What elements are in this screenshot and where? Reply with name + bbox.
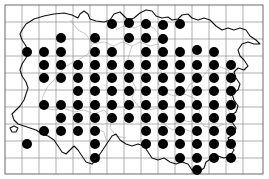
record-dot	[209, 153, 219, 163]
record-dot	[192, 165, 202, 175]
grid-horizontal-lines	[5, 22, 263, 158]
record-dot	[73, 60, 83, 70]
record-dot	[124, 113, 134, 123]
record-dot	[226, 126, 236, 136]
record-dot	[175, 139, 185, 149]
record-dot	[56, 60, 66, 70]
record-dot	[141, 100, 151, 110]
record-dot	[209, 73, 219, 83]
record-dot	[209, 86, 219, 96]
record-dot	[90, 73, 100, 83]
record-dot	[158, 139, 168, 149]
record-dot	[158, 100, 168, 110]
record-dot	[158, 60, 168, 70]
record-dot	[175, 19, 185, 29]
record-dot	[141, 47, 151, 57]
record-dot	[192, 60, 202, 70]
record-dot	[209, 139, 219, 149]
record-dot	[141, 60, 151, 70]
record-dot	[141, 126, 151, 136]
record-dot	[141, 139, 151, 149]
record-dot	[141, 19, 151, 29]
record-dot	[90, 47, 100, 57]
record-dot	[90, 113, 100, 123]
record-dot	[209, 126, 219, 136]
record-dot	[141, 33, 151, 43]
record-dot	[175, 86, 185, 96]
record-dot	[226, 113, 236, 123]
record-dot	[107, 100, 117, 110]
record-dot	[226, 73, 236, 83]
record-dot	[141, 113, 151, 123]
record-dot	[56, 113, 66, 123]
record-dot	[107, 73, 117, 83]
map-frame-border	[5, 5, 263, 174]
record-dot	[209, 100, 219, 110]
record-dot	[141, 86, 151, 96]
record-dot	[158, 20, 168, 30]
record-dot	[39, 73, 49, 83]
record-dot	[175, 100, 185, 110]
record-dot	[90, 153, 100, 163]
record-dot	[107, 86, 117, 96]
record-dot	[226, 153, 236, 163]
record-dot	[158, 73, 168, 83]
record-dot	[124, 18, 134, 28]
record-dot	[192, 73, 202, 83]
record-dot	[90, 126, 100, 136]
internal-boundaries	[42, 20, 234, 140]
record-dot	[141, 73, 151, 83]
record-dot	[90, 60, 100, 70]
record-dot	[39, 60, 49, 70]
record-dot	[39, 47, 49, 57]
record-dot	[209, 60, 219, 70]
record-dot	[90, 100, 100, 110]
record-dot	[158, 126, 168, 136]
record-dot	[192, 45, 202, 55]
record-dot	[226, 86, 236, 96]
map-canvas	[0, 0, 269, 179]
record-dot	[192, 100, 202, 110]
record-dot	[192, 113, 202, 123]
record-dot	[192, 126, 202, 136]
record-dot	[209, 113, 219, 123]
record-dot	[192, 139, 202, 149]
record-dot	[124, 33, 134, 43]
record-dot	[175, 153, 185, 163]
distribution-map-figure	[0, 0, 269, 179]
record-dot	[107, 47, 117, 57]
record-dot	[56, 33, 66, 43]
record-dot	[39, 126, 49, 136]
record-dot	[124, 86, 134, 96]
record-dot	[73, 73, 83, 83]
record-dot	[56, 100, 66, 110]
record-dot	[39, 100, 49, 110]
record-dot	[90, 33, 100, 43]
record-dot	[175, 73, 185, 83]
record-dot	[73, 86, 83, 96]
record-dot	[158, 34, 168, 44]
record-dot	[107, 60, 117, 70]
map-grid	[5, 5, 263, 174]
record-dot	[124, 73, 134, 83]
record-dot	[22, 47, 32, 57]
record-dot	[226, 60, 236, 70]
record-dot	[226, 139, 236, 149]
record-dot	[107, 19, 117, 29]
record-dot	[56, 73, 66, 83]
record-dot	[73, 126, 83, 136]
record-dot	[175, 60, 185, 70]
record-dot	[56, 126, 66, 136]
record-dot	[175, 47, 185, 57]
record-dot	[209, 47, 219, 57]
record-dot	[90, 86, 100, 96]
record-dot	[175, 126, 185, 136]
record-dot	[124, 60, 134, 70]
record-dot	[175, 113, 185, 123]
record-dot	[158, 47, 168, 57]
record-dot	[90, 139, 100, 149]
record-dot	[22, 139, 32, 149]
record-dot	[124, 100, 134, 110]
record-dot	[107, 113, 117, 123]
presence-dot-layer	[22, 18, 236, 175]
